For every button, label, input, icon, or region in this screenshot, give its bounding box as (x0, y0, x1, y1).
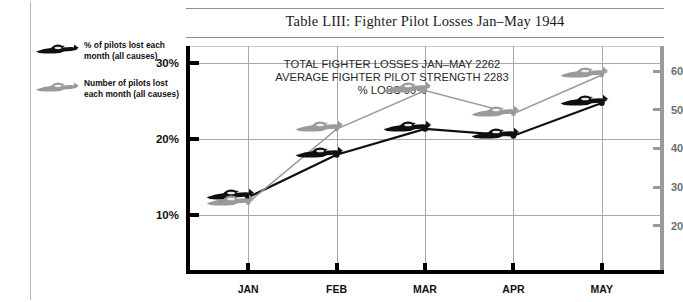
fighter-plane-icon (469, 124, 521, 147)
fighter-plane-icon (293, 143, 345, 166)
y-axis-right-label: 20 (671, 220, 683, 232)
fighter-plane-icon (558, 63, 610, 86)
y-axis-left (186, 46, 190, 274)
fighter-plane-icon (34, 79, 80, 99)
x-axis-label: MAR (413, 283, 437, 295)
fighter-plane-icon (381, 79, 433, 102)
y-axis-left-label: 10% (156, 209, 179, 221)
legend-item-number-lost: Number of pilots lost each month (all ca… (34, 78, 180, 99)
x-axis (186, 270, 664, 274)
y-axis-right-label: 40 (671, 142, 683, 154)
y-axis-left-label: 30% (156, 57, 179, 69)
fighter-plane-icon (34, 41, 80, 61)
y-axis-right-label: 30 (671, 181, 683, 193)
fighter-plane-icon (204, 191, 256, 214)
x-axis-label: FEB (326, 283, 347, 295)
y-axis-right (660, 46, 664, 274)
x-axis-label: JAN (238, 283, 259, 295)
chart-title-block: Table LIII: Fighter Pilot Losses Jan–May… (186, 8, 664, 38)
title-rule-top (186, 8, 664, 9)
title-rule-bottom (186, 37, 664, 38)
fighter-plane-icon (558, 92, 610, 115)
fighter-plane-icon (381, 117, 433, 140)
fighter-plane-icon (293, 118, 345, 141)
x-axis-label: APR (502, 283, 524, 295)
y-axis-right-label: 50 (671, 104, 683, 116)
y-axis-left-label: 20% (156, 133, 179, 145)
x-axis-label: MAY (591, 283, 613, 295)
legend-label: Number of pilots lost each month (all ca… (84, 78, 180, 99)
chart-plot-area: TOTAL FIGHTER LOSSES JAN–MAY 2262 AVERAG… (186, 46, 664, 274)
y-axis-right-label: 60 (671, 65, 683, 77)
page-title: Table LIII: Fighter Pilot Losses Jan–May… (186, 13, 664, 30)
page-left-rule (30, 2, 31, 300)
fighter-plane-icon (469, 102, 521, 125)
